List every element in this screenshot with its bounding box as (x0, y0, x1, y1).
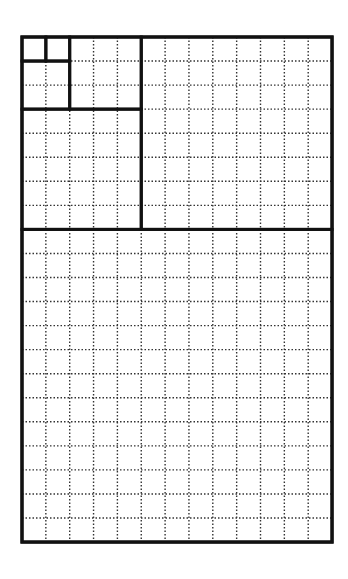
dotted-grid-lines (22, 37, 332, 542)
square-5 (22, 109, 141, 229)
fibonacci-squares (22, 37, 332, 542)
fibonacci-grid-diagram (0, 0, 348, 579)
outer-border (22, 37, 332, 542)
square-13 (22, 229, 332, 542)
square-1 (46, 37, 70, 61)
square-1 (22, 37, 46, 61)
square-3 (70, 37, 142, 109)
